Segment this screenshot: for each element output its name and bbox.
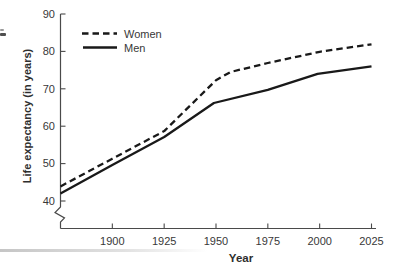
chart-legend: Women Men xyxy=(82,28,162,54)
series-men-line xyxy=(61,66,372,193)
x-axis-title: Year xyxy=(229,252,254,264)
chart-series xyxy=(61,44,372,193)
page-scan-artifact xyxy=(0,249,208,252)
life-expectancy-line-chart: 405060708090 190019251950197520002025 Wo… xyxy=(0,0,400,276)
y-axis xyxy=(55,14,65,229)
legend-women-label: Women xyxy=(124,28,162,40)
y-tick-label: 50 xyxy=(43,157,55,169)
x-axis-ticks: 190019251950197520002025 xyxy=(100,224,384,248)
x-tick-label: 1975 xyxy=(256,235,280,247)
page-scan-artifact xyxy=(0,29,4,31)
x-tick-label: 1925 xyxy=(152,235,176,247)
x-tick-label: 1950 xyxy=(204,235,228,247)
series-women-line xyxy=(61,44,372,186)
y-tick-label: 80 xyxy=(43,45,55,57)
y-axis-title: Life expectancy (in years) xyxy=(21,48,33,183)
x-tick-label: 2025 xyxy=(359,235,383,247)
page-scan-artifact xyxy=(0,33,6,36)
y-axis-ticks: 405060708090 xyxy=(43,8,66,207)
y-tick-label: 60 xyxy=(43,120,55,132)
x-tick-label: 2000 xyxy=(307,235,331,247)
legend-men-label: Men xyxy=(124,42,145,54)
y-tick-label: 90 xyxy=(43,8,55,20)
y-tick-label: 70 xyxy=(43,83,55,95)
x-tick-label: 1900 xyxy=(100,235,124,247)
y-tick-label: 40 xyxy=(43,195,55,207)
